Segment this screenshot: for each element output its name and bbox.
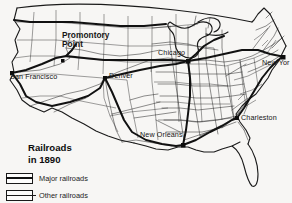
- legend-item-other-railroads: Other railroads: [6, 188, 126, 202]
- legend-label-major-railroads: Major railroads: [39, 174, 88, 183]
- city-marker-denver: [103, 76, 107, 80]
- city-label-charleston: Charleston: [241, 114, 277, 122]
- city-label-chicago: Chicago: [158, 49, 185, 57]
- city-label-san-francisco: San Francisco: [10, 73, 57, 81]
- legend-swatch-other-railroads-icon: [6, 190, 33, 201]
- city-marker-chicago: [186, 59, 191, 64]
- city-label-denver: Denver: [109, 72, 133, 80]
- railroads-1890-map-figure: Promontory Point San Francisco Denver Ch…: [0, 0, 292, 203]
- poi-label-promontory-point: Promontory Point: [62, 31, 110, 48]
- poi-marker-promontory-point: [61, 59, 65, 63]
- city-marker-new-orleans: [181, 143, 186, 148]
- city-label-new-orleans: New Orleans: [140, 131, 183, 139]
- poi-label-line2: Point: [62, 40, 110, 49]
- major-railroads: [12, 20, 283, 146]
- legend-swatch-major-railroads-icon: [6, 173, 33, 184]
- map-legend: Railroads in 1890 Major railroads Other …: [6, 142, 126, 203]
- city-label-new-york: New Yor: [262, 59, 289, 67]
- legend-title: Railroads in 1890: [28, 142, 126, 165]
- legend-title-line1: Railroads: [28, 142, 126, 154]
- legend-item-major-railroads: Major railroads: [6, 171, 126, 185]
- legend-items: Major railroads Other railroads: [6, 171, 126, 202]
- city-marker-charleston: [235, 116, 239, 120]
- legend-label-other-railroads: Other railroads: [39, 191, 88, 200]
- legend-title-line2: in 1890: [28, 154, 126, 166]
